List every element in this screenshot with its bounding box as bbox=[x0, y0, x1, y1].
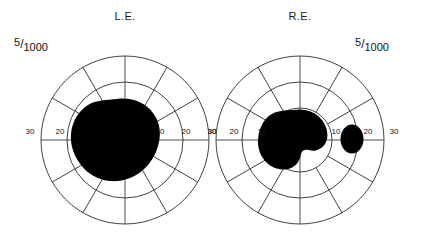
visual-field-chart-figure: L.E. 5/1000 30 20 10 20 30 R.E. bbox=[0, 0, 425, 245]
left-tick-label-inner-right: 10 bbox=[156, 127, 165, 136]
shared-tick-label-left-outer: 30 bbox=[208, 127, 217, 136]
left-tick-label-mid-left: 20 bbox=[56, 127, 65, 136]
left-isopter-denominator: 1000 bbox=[23, 41, 47, 53]
left-eye-title: L.E. bbox=[114, 10, 135, 22]
right-tick-label-inner-right: 10 bbox=[332, 127, 341, 136]
right-isopter-denominator: 1000 bbox=[364, 41, 388, 53]
right-eye-title: R.E. bbox=[289, 10, 312, 22]
right-tick-label-outer-right: 30 bbox=[390, 127, 399, 136]
right-eye-blind-spot-scotoma bbox=[341, 125, 364, 154]
right-tick-label-inner-left: 10 bbox=[258, 127, 267, 136]
right-tick-label-mid-right: 20 bbox=[364, 127, 373, 136]
left-tick-label-outer-left: 30 bbox=[26, 127, 35, 136]
left-tick-label-mid-right: 20 bbox=[182, 127, 191, 136]
right-tick-label-mid-left: 20 bbox=[230, 127, 239, 136]
